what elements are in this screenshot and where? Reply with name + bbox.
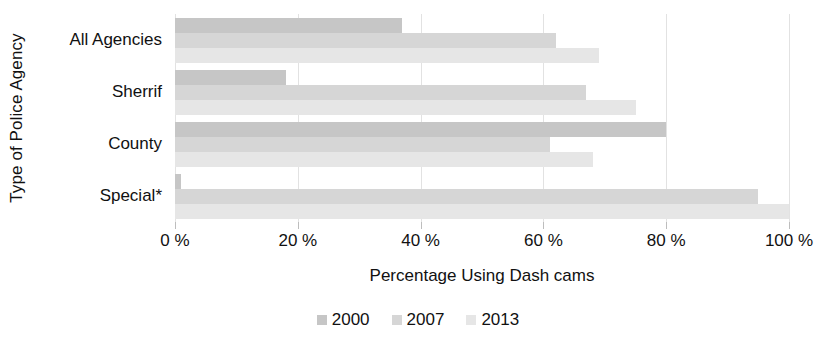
bar-2013 xyxy=(175,100,636,115)
x-tick-mark xyxy=(543,222,544,229)
legend-swatch-icon xyxy=(317,315,327,325)
bar-2000 xyxy=(175,174,181,189)
legend-label: 2013 xyxy=(481,310,519,330)
x-tick-mark xyxy=(666,222,667,229)
x-tick-label: 80 % xyxy=(647,231,686,251)
bar-group xyxy=(175,14,789,66)
x-axis-ticks xyxy=(175,222,789,230)
x-tick-mark xyxy=(421,222,422,229)
bar-2007 xyxy=(175,137,550,152)
x-tick-mark xyxy=(298,222,299,229)
bar-2007 xyxy=(175,189,758,204)
bar-2000 xyxy=(175,122,666,137)
category-label-special: Special* xyxy=(36,170,170,222)
bar-group xyxy=(175,118,789,170)
x-axis-title: Percentage Using Dash cams xyxy=(175,266,789,286)
legend-swatch-icon xyxy=(466,315,476,325)
y-axis-title: Type of Police Agency xyxy=(0,0,34,236)
category-axis-labels: All Agencies Sherrif County Special* xyxy=(36,14,170,222)
chart-legend: 200020072013 xyxy=(0,310,836,330)
legend-swatch-icon xyxy=(392,315,402,325)
bar-2000 xyxy=(175,70,286,85)
bar-group xyxy=(175,170,789,222)
bar-2000 xyxy=(175,18,402,33)
x-tick-label: 60 % xyxy=(524,231,563,251)
legend-item-2000[interactable]: 2000 xyxy=(317,310,370,330)
bar-2013 xyxy=(175,204,789,219)
gridline xyxy=(789,14,790,222)
x-tick-label: 40 % xyxy=(401,231,440,251)
x-tick-label: 20 % xyxy=(278,231,317,251)
category-label-county: County xyxy=(36,118,170,170)
bar-group xyxy=(175,66,789,118)
bar-groups xyxy=(175,14,789,222)
bar-2013 xyxy=(175,48,599,63)
x-tick-label: 0 % xyxy=(160,231,189,251)
bar-2007 xyxy=(175,33,556,48)
plot-area xyxy=(175,14,789,222)
category-label-all-agencies: All Agencies xyxy=(36,14,170,66)
x-axis-tick-labels: 0 %20 %40 %60 %80 %100 % xyxy=(175,231,789,255)
x-tick-mark xyxy=(175,222,176,229)
legend-label: 2007 xyxy=(407,310,445,330)
legend-item-2013[interactable]: 2013 xyxy=(466,310,519,330)
legend-label: 2000 xyxy=(332,310,370,330)
bar-2007 xyxy=(175,85,586,100)
x-tick-label: 100 % xyxy=(765,231,813,251)
x-tick-mark xyxy=(789,222,790,229)
bar-chart: Type of Police Agency All Agencies Sherr… xyxy=(0,0,836,352)
category-label-sherrif: Sherrif xyxy=(36,66,170,118)
legend-item-2007[interactable]: 2007 xyxy=(392,310,445,330)
bar-2013 xyxy=(175,152,593,167)
